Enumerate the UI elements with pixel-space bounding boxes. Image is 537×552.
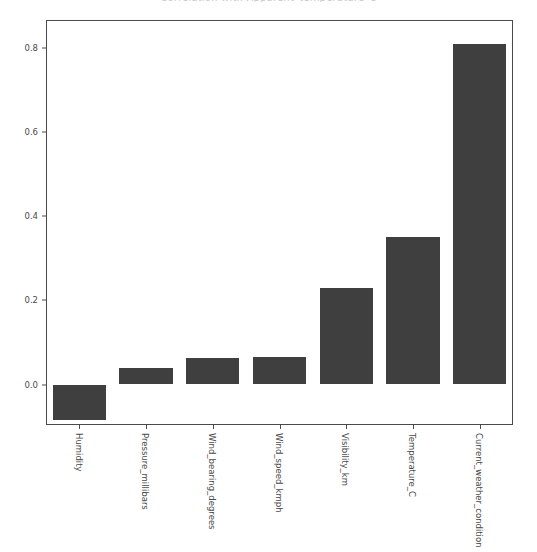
bars-layer (46, 20, 513, 425)
bar-wind_speed_kmph[interactable] (253, 357, 306, 385)
bar-pressure_millibars[interactable] (119, 368, 172, 385)
bar-temperature_c[interactable] (386, 237, 439, 384)
x-axis-tick-label: Wind_speed_kmph (274, 433, 283, 513)
bar-current_weather_condition[interactable] (453, 44, 506, 385)
y-axis-tick-labels: 0.00.20.40.60.8 (0, 0, 38, 552)
x-axis-tick-label: Humidity (74, 433, 83, 472)
x-axis-tick-label: Current_weather_condition (474, 433, 483, 548)
x-axis-tick-mark (79, 425, 80, 429)
y-axis-tick-label: 0.2 (24, 295, 38, 305)
bar-chart-figure: Correlation with Apparent_temperature_C … (0, 0, 537, 552)
x-axis-tick-label: Pressure_millibars (141, 433, 150, 510)
x-axis-tick-mark (213, 425, 214, 429)
bar-humidity[interactable] (53, 385, 106, 421)
bar-visibility_km[interactable] (320, 288, 373, 385)
x-axis-tick-mark (413, 425, 414, 429)
x-axis-tick-label: Wind_bearing_degrees (207, 433, 216, 530)
x-axis-tick-label: Visibility_km (341, 433, 350, 486)
x-axis-tick-mark (146, 425, 147, 429)
y-axis-tick-label: 0.0 (24, 380, 38, 390)
x-axis-tick-mark (346, 425, 347, 429)
y-axis-tick-label: 0.6 (24, 127, 38, 137)
bar-wind_bearing_degrees[interactable] (186, 358, 239, 384)
y-axis-tick-label: 0.4 (24, 211, 38, 221)
y-axis-tick-label: 0.8 (24, 43, 38, 53)
x-axis-tick-mark (480, 425, 481, 429)
x-axis-tick-label: Temperature_C (408, 433, 417, 497)
chart-title: Correlation with Apparent_temperature_C (0, 0, 537, 2)
x-axis-tick-mark (280, 425, 281, 429)
